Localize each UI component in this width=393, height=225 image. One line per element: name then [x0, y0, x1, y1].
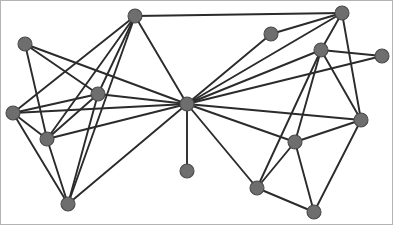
graph-edge: [135, 16, 187, 104]
network-graph-canvas: [1, 1, 393, 225]
graph-node: [250, 181, 264, 195]
graph-node: [6, 106, 20, 120]
graph-node: [61, 197, 75, 211]
graph-edge: [187, 104, 361, 120]
graph-edge: [47, 139, 68, 204]
graph-node: [375, 49, 389, 63]
edge-layer: [13, 13, 382, 212]
graph-edge: [257, 50, 321, 188]
graph-node: [180, 97, 194, 111]
graph-node: [314, 43, 328, 57]
graph-edge: [295, 142, 314, 212]
graph-node: [18, 37, 32, 51]
graph-node: [354, 113, 368, 127]
graph-edge: [321, 50, 382, 56]
network-graph-figure: [0, 0, 393, 225]
graph-node: [307, 205, 321, 219]
graph-edge: [25, 44, 98, 94]
graph-edge: [135, 13, 342, 16]
graph-node: [91, 87, 105, 101]
graph-node: [288, 135, 302, 149]
graph-node: [128, 9, 142, 23]
graph-node: [264, 27, 278, 41]
graph-node: [40, 132, 54, 146]
graph-edge: [257, 188, 314, 212]
graph-node: [335, 6, 349, 20]
graph-node: [180, 164, 194, 178]
graph-edge: [187, 50, 321, 104]
